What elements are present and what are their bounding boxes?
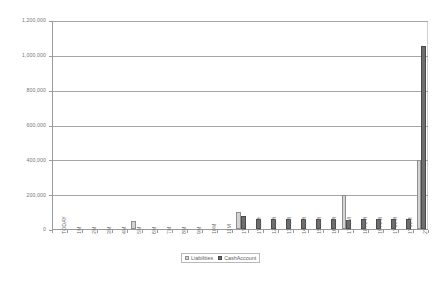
x-axis-tick [82,230,83,233]
x-axis-tick [112,230,113,233]
bar-group [417,21,426,229]
bar-group [71,21,80,229]
bar-liabilities [131,221,136,229]
bar-group [206,21,215,229]
bar-group [161,21,170,229]
x-axis-tick [127,230,128,233]
bar-group [56,21,65,229]
bar-group [86,21,95,229]
x-axis-tick [323,230,324,233]
x-axis-tick [187,230,188,233]
bar-group [342,21,351,229]
y-axis-tick [49,91,52,92]
x-axis-tick [232,230,233,233]
y-axis-label: 200,000 [0,193,46,198]
x-axis-tick [217,230,218,233]
legend-entry-liabilities: Liabilities [185,255,213,261]
y-axis-label: 400,000 [0,158,46,163]
x-axis-tick [202,230,203,233]
x-axis-tick [97,230,98,233]
y-axis-label: 600,000 [0,123,46,128]
x-axis-tick [428,230,429,233]
x-axis-tick [248,230,249,233]
bar-group [387,21,396,229]
bar-chart: 0200,000400,000600,000800,0001,000,0001,… [0,0,436,284]
y-axis-label: 0 [0,227,46,232]
x-axis-tick [293,230,294,233]
x-axis-tick [157,230,158,233]
x-axis-tick [368,230,369,233]
bar-group [327,21,336,229]
x-axis-tick [52,230,53,233]
bar-group [131,21,140,229]
y-axis-tick [49,126,52,127]
y-axis-label: 1,000,000 [0,53,46,58]
bar-group [281,21,290,229]
y-axis-tick [49,21,52,22]
bar-group [146,21,155,229]
x-axis-tick [278,230,279,233]
x-axis-tick [308,230,309,233]
y-axis-label: 800,000 [0,88,46,93]
bar-group [372,21,381,229]
bar-group [312,21,321,229]
x-axis-tick [67,230,68,233]
bar-group [251,21,260,229]
bar-cashaccount [421,46,426,229]
y-axis-tick [49,56,52,57]
x-axis-tick [338,230,339,233]
x-axis-tick [413,230,414,233]
y-axis-label: 1,200,000 [0,18,46,23]
x-axis-tick [263,230,264,233]
chart-legend: Liabilities CashAccount [181,253,260,263]
x-axis-tick [353,230,354,233]
bar-group [176,21,185,229]
y-axis-tick [49,160,52,161]
y-axis-tick [49,195,52,196]
x-axis-tick [383,230,384,233]
legend-label-cashaccount: CashAccount [224,255,256,261]
bar-group [266,21,275,229]
legend-entry-cashaccount: CashAccount [218,255,256,261]
bar-group [116,21,125,229]
bar-group [402,21,411,229]
bar-group [101,21,110,229]
legend-swatch-icon-cashaccount [218,256,222,260]
x-axis-tick [142,230,143,233]
bar-group [221,21,230,229]
legend-swatch-icon-liabilities [185,256,189,260]
x-axis-tick [172,230,173,233]
x-axis-tick [398,230,399,233]
bar-group [357,21,366,229]
bar-group [296,21,305,229]
bar-group [236,21,245,229]
legend-label-liabilities: Liabilities [191,255,213,261]
plot-area [52,21,428,230]
bar-series-container [53,21,428,229]
bar-group [191,21,200,229]
